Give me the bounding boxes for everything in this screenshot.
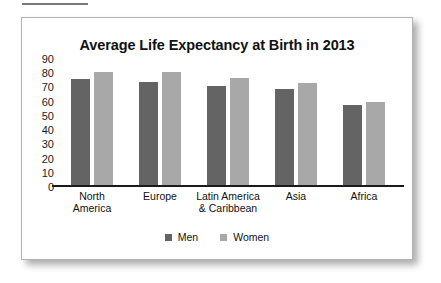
- bar-women: [298, 83, 317, 187]
- y-tick-label: 60: [42, 96, 54, 107]
- bar-groups: [58, 59, 398, 187]
- x-axis-line: [52, 185, 404, 187]
- y-tick-label: 0: [48, 182, 54, 193]
- category-label: North America: [58, 190, 126, 215]
- y-tick-label: 70: [42, 82, 54, 93]
- top-rule-mark: [22, 3, 88, 5]
- bar-group: [126, 59, 194, 187]
- bar-men: [139, 82, 158, 187]
- category-label: Asia: [262, 190, 330, 215]
- bar-men: [207, 86, 226, 187]
- category-label: Latin America & Caribbean: [194, 190, 262, 215]
- bar-men: [71, 79, 90, 187]
- legend-swatch-icon: [220, 234, 227, 241]
- bar-women: [230, 78, 249, 188]
- y-tick-label: 10: [42, 167, 54, 178]
- bar-men: [275, 89, 294, 187]
- bar-women: [366, 102, 385, 187]
- legend-label: Women: [233, 231, 269, 243]
- y-tick-label: 80: [42, 68, 54, 79]
- legend-swatch-icon: [165, 234, 172, 241]
- category-label: Europe: [126, 190, 194, 215]
- category-labels: North America Europe Latin America & Car…: [58, 190, 398, 215]
- legend-label: Men: [178, 231, 198, 243]
- bar-men: [343, 105, 362, 187]
- chart-card: Average Life Expectancy at Birth in 2013…: [21, 17, 413, 260]
- y-tick-label: 40: [42, 125, 54, 136]
- category-label: Africa: [330, 190, 398, 215]
- y-axis: 90 80 70 60 50 40 30 20 10 0: [26, 59, 54, 187]
- y-tick-label: 50: [42, 110, 54, 121]
- bar-group: [330, 59, 398, 187]
- plot-area: 90 80 70 60 50 40 30 20 10 0: [58, 59, 398, 187]
- bar-group: [58, 59, 126, 187]
- legend-item-women: Women: [220, 231, 269, 243]
- bar-women: [94, 72, 113, 187]
- legend-item-men: Men: [165, 231, 198, 243]
- chart-title: Average Life Expectancy at Birth in 2013: [22, 37, 412, 53]
- bar-group: [262, 59, 330, 187]
- chart-legend: Men Women: [22, 231, 412, 243]
- bar-group: [194, 59, 262, 187]
- bar-women: [162, 72, 181, 187]
- y-tick-label: 90: [42, 54, 54, 65]
- y-tick-label: 20: [42, 153, 54, 164]
- y-tick-label: 30: [42, 139, 54, 150]
